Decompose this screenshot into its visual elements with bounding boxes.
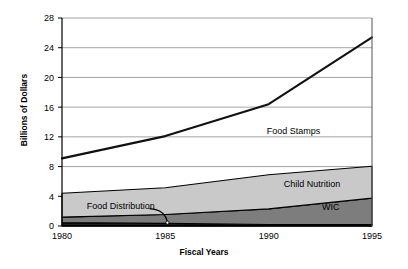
series-label-wic: WIC (322, 202, 340, 212)
chart-svg: 0481216202428 1980198519901995 Food Stam… (0, 0, 408, 269)
series-label-food-stamps: Food Stamps (267, 126, 321, 136)
y-tick-label: 20 (44, 73, 54, 83)
food-distribution-leader-dot (166, 221, 169, 224)
y-tick-label: 12 (44, 132, 54, 142)
y-tick-label: 8 (49, 162, 54, 172)
chart-background (0, 0, 408, 269)
x-tick-label: 1985 (155, 231, 175, 241)
chart-canvas: 0481216202428 1980198519901995 Food Stam… (0, 0, 408, 269)
x-axis-title: Fiscal Years (0, 247, 408, 257)
chart-container: 0481216202428 1980198519901995 Food Stam… (0, 0, 408, 269)
y-tick-label: 0 (49, 221, 54, 231)
y-tick-label: 16 (44, 103, 54, 113)
x-tick-label: 1995 (362, 231, 382, 241)
series-label-food-distribution: Food Distribution (87, 201, 155, 211)
y-axis-title: Billions of Dollars (19, 40, 29, 180)
y-tick-label: 28 (44, 13, 54, 23)
series-label-child-nutrition: Child Nutrition (284, 179, 341, 189)
x-tick-label: 1990 (259, 231, 279, 241)
y-tick-label: 4 (49, 192, 54, 202)
x-tick-label: 1980 (52, 231, 72, 241)
y-tick-label: 24 (44, 43, 54, 53)
